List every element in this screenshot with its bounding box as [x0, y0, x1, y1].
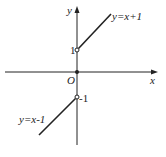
piecewise-function-graph: y x O 1 -1 y=x+1 y=x-1 — [0, 0, 166, 157]
tick-label-1: 1 — [70, 44, 76, 56]
y-axis-label: y — [66, 4, 72, 16]
origin-label: O — [67, 74, 75, 86]
x-axis-label: x — [149, 74, 155, 86]
y-axis-arrow-icon — [75, 6, 80, 13]
upper-line-label: y=x+1 — [111, 10, 142, 22]
line-y-equals-x-plus-1 — [79, 14, 112, 49]
tick-label-neg1: -1 — [79, 92, 88, 104]
open-point-0-1 — [75, 48, 79, 52]
lower-line-label: y=x-1 — [18, 113, 45, 125]
origin-point — [75, 70, 79, 74]
